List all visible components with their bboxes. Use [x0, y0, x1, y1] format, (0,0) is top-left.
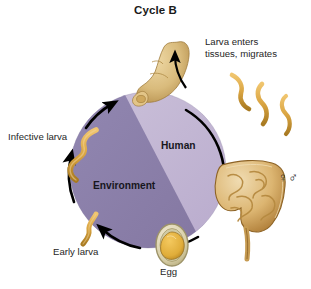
stage-label-early-larva: Early larva [53, 246, 98, 258]
stage-label-larva-enters-line2: tissues, migrates [205, 48, 277, 60]
stage-label-larva-enters-line1: Larva enters [205, 36, 277, 48]
intestine-illustration [215, 161, 285, 259]
larva-illustration-outer-2 [258, 84, 267, 124]
stage-label-larva-enters: Larva enters tissues, migrates [205, 36, 277, 59]
sex-symbols: ♀♂ [278, 170, 299, 185]
stage-label-egg: Egg [160, 266, 177, 278]
larva-illustration-outer-3 [282, 96, 290, 134]
region-label-human: Human [161, 140, 196, 151]
larva-illustration-outer-1 [232, 75, 249, 109]
egg-illustration [156, 224, 188, 266]
diagram-canvas: Cycle B [0, 0, 311, 289]
region-label-environment: Environment [93, 180, 155, 191]
stage-label-infective-larva: Infective larva [8, 131, 67, 143]
foot-illustration [132, 42, 189, 106]
